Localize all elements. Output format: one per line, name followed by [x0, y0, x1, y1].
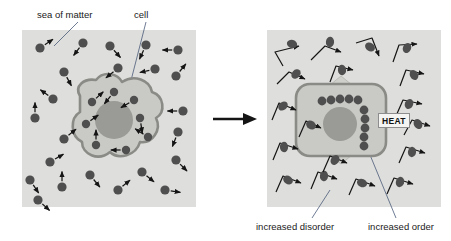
heat-label: HEAT	[378, 113, 410, 128]
figure-root: sea of matter cell increased disorder in…	[0, 0, 451, 241]
